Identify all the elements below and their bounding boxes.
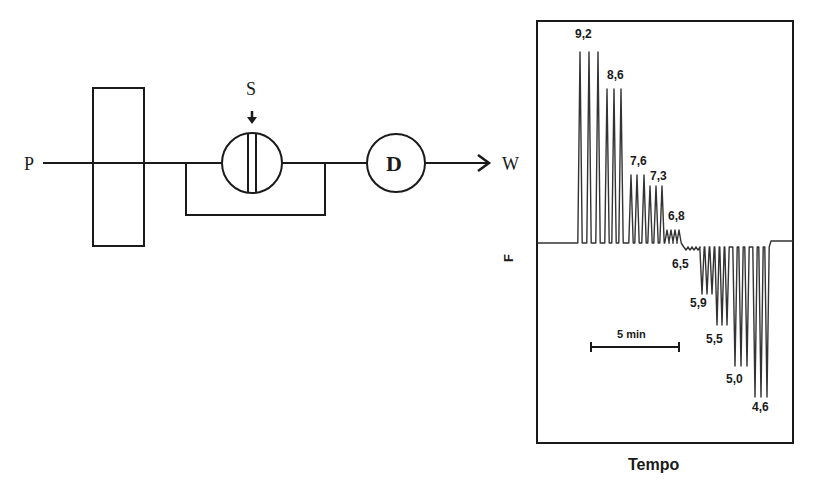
injector-valve [222,133,282,193]
scale-bar [591,342,679,352]
injection-arrow-icon [247,111,257,124]
peak-label: 6,5 [672,257,689,271]
detector-label: D [386,151,402,176]
peak-label: 5,9 [690,296,707,310]
pump-label: P [24,154,34,174]
peak-label: 5,0 [726,372,743,386]
scale-bar-label: 5 min [617,328,646,340]
y-axis-label: F [501,254,516,262]
figure: P S D W F Tempo 9,28,67,67,36,86,55,95,5… [0,0,818,489]
peak-label: 6,8 [668,209,685,223]
column-rectangle [93,88,144,246]
fluorescence-trace [538,52,793,397]
peak-label: 7,6 [630,154,647,168]
peak-label: 7,3 [650,169,667,183]
waste-label: W [502,154,519,174]
peak-label: 8,6 [607,68,624,82]
injector-label: S [246,79,256,99]
flow-schematic [43,88,489,246]
peak-label: 9,2 [575,27,592,41]
peak-label: 5,5 [706,332,723,346]
peak-label: 4,6 [752,400,769,414]
peak-labels: 9,28,67,67,36,86,55,95,55,04,6 [575,27,769,414]
x-axis-label: Tempo [628,456,679,473]
